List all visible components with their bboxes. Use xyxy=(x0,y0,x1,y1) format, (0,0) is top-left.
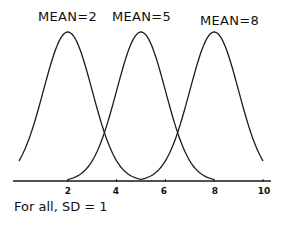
x-tick-label-8: 8 xyxy=(212,187,218,196)
series-label-mean-8: MEAN=8 xyxy=(200,14,259,27)
x-tick-label-10: 10 xyxy=(258,187,271,196)
x-tick-label-6: 6 xyxy=(161,187,167,196)
curve-mean-5 xyxy=(68,32,214,179)
curve-mean-8 xyxy=(141,32,263,179)
footnote-sd: For all, SD = 1 xyxy=(14,200,108,213)
series-label-mean-2: MEAN=2 xyxy=(38,10,97,23)
distribution-curves xyxy=(19,32,263,179)
series-label-mean-5: MEAN=5 xyxy=(112,10,171,23)
x-tick-label-4: 4 xyxy=(113,187,119,196)
curve-mean-2 xyxy=(19,32,141,179)
chart-plot-area xyxy=(0,0,288,225)
x-tick-label-2: 2 xyxy=(65,187,71,196)
